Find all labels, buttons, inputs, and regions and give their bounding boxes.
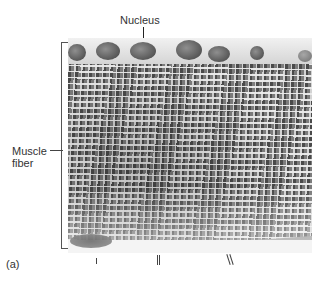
muscle-fiber-label-line2: fiber: [12, 157, 47, 169]
artifact-mark: [96, 258, 97, 264]
nucleus-6: [250, 46, 264, 60]
nucleus-5: [208, 46, 230, 62]
nucleus-1: [68, 44, 86, 61]
nucleus-2: [96, 42, 120, 60]
nucleus-label: Nucleus: [120, 14, 160, 26]
muscle-fiber-label-line1: Muscle: [12, 145, 47, 157]
muscle-fiber-leader-line: [50, 150, 63, 151]
nucleus-bottom: [70, 234, 112, 248]
photo-shading: [68, 38, 312, 253]
nucleus-4: [176, 40, 202, 60]
muscle-micrograph: [68, 38, 312, 253]
muscle-fiber-bracket: [61, 42, 68, 249]
nucleus-3: [130, 42, 156, 60]
panel-label: (a): [6, 258, 19, 270]
nucleus-7: [298, 50, 312, 62]
artifact-mark: [159, 255, 160, 265]
muscle-fiber-label: Muscle fiber: [12, 145, 47, 169]
artifact-mark: [157, 255, 158, 265]
